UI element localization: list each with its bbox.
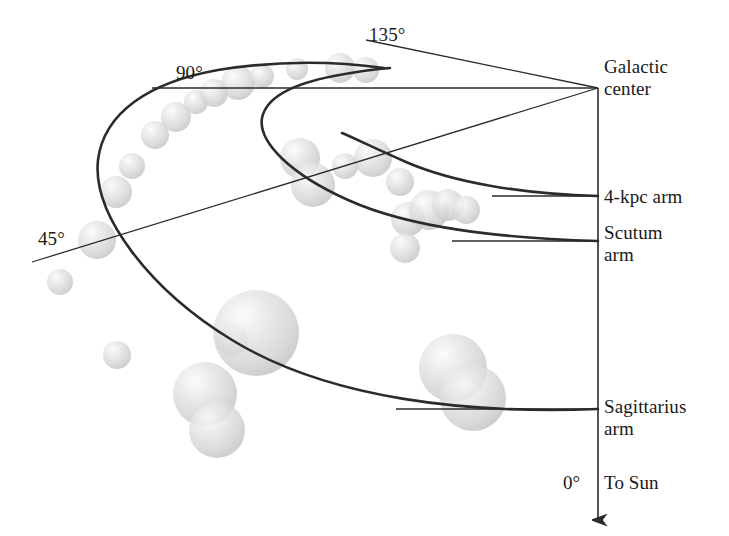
molecular-cloud (390, 233, 420, 263)
molecular-cloud (119, 153, 145, 179)
molecular-cloud (325, 53, 355, 83)
angle-90-label: 90° (176, 62, 203, 84)
scutum-arm-label: Scutumarm (604, 222, 663, 267)
molecular-cloud (291, 163, 335, 207)
molecular-cloud (452, 196, 480, 224)
molecular-cloud (221, 66, 255, 100)
angle-45-label: 45° (38, 228, 65, 250)
molecular-cloud (213, 290, 299, 376)
molecular-cloud (103, 341, 131, 369)
galaxy-spiral-arm-diagram: Galacticcenter 4-kpc arm Scutumarm Sagit… (0, 0, 729, 536)
galactic-center-label: Galacticcenter (604, 56, 668, 101)
angle-reference-line-135deg (366, 40, 598, 88)
molecular-cloud (386, 168, 414, 196)
angle-0-label: 0° (563, 472, 580, 494)
molecular-cloud (354, 139, 392, 177)
molecular-cloud (286, 58, 308, 80)
angle-reference-line-group (32, 40, 598, 520)
molecular-cloud (440, 365, 506, 431)
molecular-cloud (189, 402, 245, 458)
molecular-cloud-group (47, 53, 506, 458)
molecular-cloud (47, 269, 73, 295)
sagittarius-arm-label: Sagittariusarm (604, 396, 686, 441)
angle-135-label: 135° (369, 24, 406, 46)
4kpc-arm-label: 4-kpc arm (604, 186, 682, 208)
molecular-cloud (250, 64, 274, 88)
molecular-cloud (78, 221, 116, 259)
to-sun-label: To Sun (604, 472, 659, 494)
